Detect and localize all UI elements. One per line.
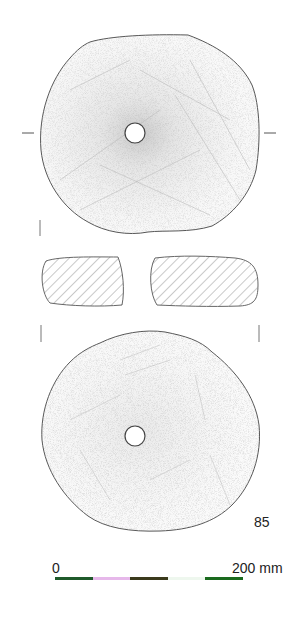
top-face-view	[22, 35, 276, 236]
scale-end-label: 200 mm	[232, 560, 283, 576]
object-drawing	[0, 0, 295, 618]
cross-section-view	[42, 256, 258, 306]
top-face-perforation	[125, 123, 145, 143]
scale-bar	[55, 577, 243, 580]
scale-segment-5	[205, 577, 243, 580]
scale-segment-3	[130, 577, 168, 580]
section-right	[151, 256, 258, 306]
scale-start-label: 0	[52, 560, 60, 576]
scale-segment-2	[93, 577, 131, 580]
section-left	[42, 257, 123, 306]
bottom-face-view	[41, 325, 260, 531]
scale-segment-1	[55, 577, 93, 580]
scale-segment-4	[168, 577, 206, 580]
catalogue-number: 85	[254, 514, 270, 530]
bottom-face-perforation	[125, 426, 145, 446]
